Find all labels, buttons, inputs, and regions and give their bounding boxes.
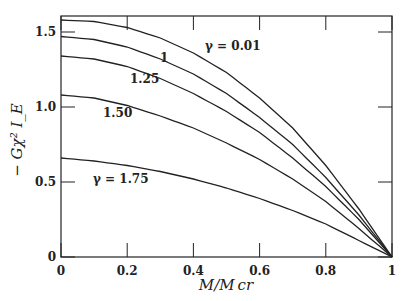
y-tick-label: 1.5 bbox=[35, 25, 56, 39]
chart: 00.20.40.60.8100.51.01.5M/M cr− Gχ² I_Eγ… bbox=[0, 0, 404, 301]
series-label: γ = 0.01 bbox=[205, 39, 261, 53]
series-label: 1 bbox=[160, 51, 168, 65]
y-tick-label: 0.5 bbox=[35, 175, 56, 189]
series-line bbox=[61, 56, 392, 257]
y-tick-label: 0 bbox=[48, 250, 56, 264]
x-tick-label: 0.8 bbox=[315, 264, 336, 278]
y-axis-label: − Gχ² I_E bbox=[8, 103, 26, 177]
x-tick-label: 1 bbox=[388, 264, 396, 278]
series-label: 1.25 bbox=[130, 72, 159, 86]
series-label: γ = 1.75 bbox=[93, 172, 149, 186]
series-line bbox=[61, 37, 392, 258]
x-axis-label: M/M cr bbox=[198, 276, 254, 294]
x-tick-label: 0 bbox=[57, 264, 65, 278]
series-label: 1.50 bbox=[103, 106, 132, 120]
series-line bbox=[61, 20, 392, 257]
y-tick-label: 1.0 bbox=[35, 100, 56, 114]
x-tick-label: 0.2 bbox=[117, 264, 138, 278]
